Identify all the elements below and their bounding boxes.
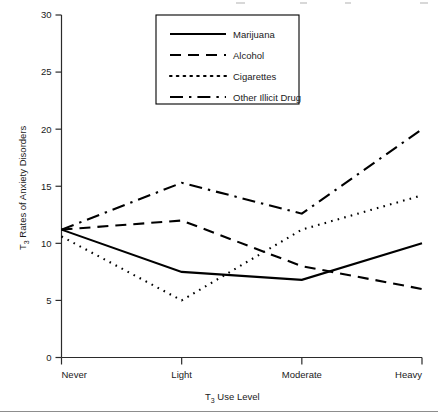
y-axis-title: T3 Rates of Anxiety Disorders <box>17 125 30 250</box>
x-axis-ticks: NeverLightModerateHeavy <box>62 358 423 380</box>
series-line <box>62 129 423 229</box>
legend-label-other-illicit-drug: Other Illicit Drug <box>233 92 301 103</box>
series-line <box>62 221 423 290</box>
x-category-label: Never <box>62 369 87 380</box>
y-tick-label: 0 <box>46 352 51 363</box>
legend-label-marijuana: Marijuana <box>233 29 275 40</box>
series-line <box>62 230 423 280</box>
y-tick-label: 20 <box>41 124 52 135</box>
x-category-label: Light <box>171 369 192 380</box>
y-tick-label: 5 <box>46 295 51 306</box>
x-axis-title: T3 Use Level <box>205 391 260 404</box>
svg-text:T3 Rates of Anxiety Disorders: T3 Rates of Anxiety Disorders <box>17 125 30 250</box>
x-axis-title-rest: Use Level <box>215 391 260 402</box>
y-axis-ticks: 051015202530 <box>41 9 62 363</box>
y-tick-label: 25 <box>41 66 52 77</box>
chart-canvas: 051015202530 NeverLightModerateHeavy T3 … <box>0 0 438 419</box>
scan-noise <box>236 2 428 4</box>
y-tick-label: 30 <box>41 9 52 20</box>
x-category-label: Heavy <box>395 369 422 380</box>
y-axis-title-rest: Rates of Anxiety Disorders <box>17 125 28 240</box>
line-chart: 051015202530 NeverLightModerateHeavy T3 … <box>0 0 438 419</box>
legend: MarijuanaAlcoholCigarettesOther Illicit … <box>156 15 301 104</box>
y-tick-label: 15 <box>41 181 52 192</box>
series-layer <box>62 129 423 300</box>
legend-label-cigarettes: Cigarettes <box>233 71 277 82</box>
svg-text:T3 Use Level: T3 Use Level <box>205 391 260 404</box>
x-category-label: Moderate <box>282 369 322 380</box>
y-tick-label: 10 <box>41 238 52 249</box>
legend-label-alcohol: Alcohol <box>233 50 264 61</box>
